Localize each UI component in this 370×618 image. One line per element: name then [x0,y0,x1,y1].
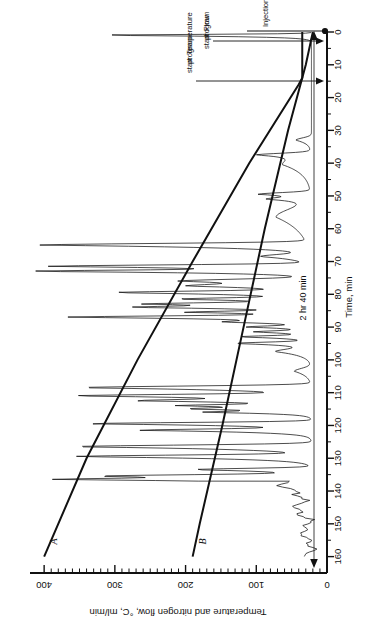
time-tick-label: 20 [332,92,343,103]
value-tick-label: 100 [248,580,264,591]
flow-program-label-line3: start [202,33,211,49]
value-tick-label: 300 [107,580,123,591]
value-tick-label: 200 [178,580,194,591]
time-tick-label: 150 [332,516,343,532]
series-a-temperature-program [44,32,302,557]
value-axis: 0100200300400 Temperature and nitrogen f… [30,565,330,618]
temperature-program-label-line3: start [185,57,194,73]
time-tick-label: 160 [332,549,343,565]
run-duration-annotation: 2 hr 40 min [298,31,318,568]
time-tick-label: 80 [332,289,343,300]
value-tick-label: 0 [324,580,329,591]
curve-label-b: B [197,538,208,544]
value-tick-label: 400 [36,580,52,591]
time-tick-label: 0 [332,29,343,34]
time-axis: 0102030405060708090100110120130140150160… [327,29,354,573]
time-tick-label: 130 [332,450,343,466]
value-axis-title: Temperature and nitrogen flow, °C, ml/mi… [90,607,267,618]
time-tick-label: 120 [332,418,343,434]
injection-annotation: Injection [247,0,328,34]
figure-canvas: 0102030405060708090100110120130140150160… [0,0,370,618]
time-tick-label: 90 [332,322,343,333]
run-duration-label: 2 hr 40 min [298,275,308,320]
time-tick-label: 140 [332,483,343,499]
time-tick-label: 10 [332,59,343,70]
injection-marker-dot [322,28,328,34]
time-tick-label: 60 [332,223,343,234]
time-tick-label: 110 [332,385,343,400]
time-tick-label: 70 [332,256,343,267]
value-axis-ticks [44,565,327,573]
time-axis-title: Time, min [343,276,354,317]
chromatogram-plot: 0102030405060708090100110120130140150160… [0,0,370,618]
time-axis-tick-labels: 0102030405060708090100110120130140150160 [332,29,343,564]
time-tick-label: 30 [332,125,343,136]
temperature-program-arrowhead [316,78,324,85]
curve-label-a: A [48,538,59,546]
run-duration-arrowhead-end [310,559,318,568]
value-axis-tick-labels: 0100200300400 [36,580,329,591]
time-tick-label: 100 [332,352,343,368]
time-tick-label: 50 [332,191,343,202]
time-tick-label: 40 [332,158,343,169]
injection-label: Injection [261,0,270,27]
